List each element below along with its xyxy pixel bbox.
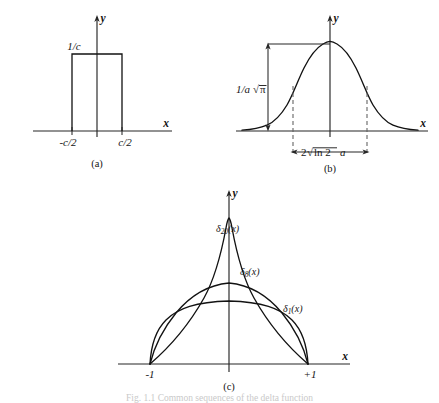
panel-c-y-axis-label: y [230, 187, 238, 200]
panel-a-height-label: 1/c [67, 40, 81, 52]
panel-c-label-delta20-text: δ20(x) [216, 223, 240, 236]
panel-b-height-label: 1/a √ π [236, 83, 267, 95]
panel-c-label-delta8-text: δ8(x) [240, 266, 260, 279]
panel-b-width-label-prefix: 2 [301, 146, 307, 158]
panel-b-x-axis-label: x [419, 117, 426, 129]
panel-b-width-label: 2 √ ln 2 a [301, 146, 346, 158]
radical-sign-icon: √ [253, 83, 260, 95]
panel-c-tick-label-pos: +1 [304, 368, 317, 380]
panel-a-x-axis-label: x [162, 117, 169, 129]
panel-c-caption: (c) [223, 381, 235, 393]
panel-b: 1/a √ π 2 √ ln 2 a x y (b) [236, 12, 428, 175]
panel-a: 1/c -c/2 c/2 x y (a) [33, 12, 172, 170]
panel-a-tick-label-pos: c/2 [118, 136, 132, 148]
panel-c-label-delta8: δ8(x) [240, 266, 260, 279]
panel-b-height-label-radicand: π [260, 83, 266, 95]
panel-c-tick-label-neg: -1 [145, 368, 154, 380]
panel-b-y-axis-label: y [331, 12, 339, 25]
panel-c-x-axis-label: x [341, 350, 348, 362]
radical-sign-icon-2: √ [307, 146, 314, 158]
panel-a-y-axis-label: y [98, 12, 106, 25]
figure-caption-cropped: Fig. 1.1 Common sequences of the delta f… [0, 393, 439, 403]
panel-b-caption: (b) [324, 163, 337, 175]
panel-a-tick-label-neg: -c/2 [59, 136, 77, 148]
panel-a-caption: (a) [91, 158, 103, 170]
panel-b-width-label-suffix: a [340, 146, 346, 158]
panel-c-label-delta20: δ20(x) [216, 223, 240, 236]
panel-c: δ20(x) δ8(x) δ1(x) -1 +1 x y (c) [118, 187, 350, 393]
panel-b-height-label-prefix: 1/a [236, 83, 251, 95]
